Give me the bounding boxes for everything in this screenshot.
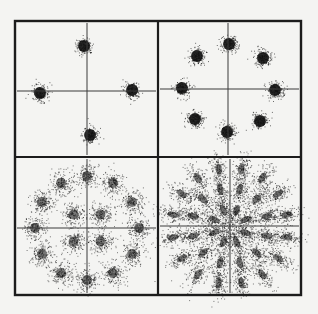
constellation-point <box>56 178 66 188</box>
constellation-point <box>95 236 105 246</box>
constellation-point <box>257 52 269 64</box>
constellation-point <box>127 197 137 207</box>
constellation-point <box>95 210 105 220</box>
constellation-point <box>37 249 47 259</box>
constellation-point <box>127 249 137 259</box>
constellation-point <box>223 38 235 50</box>
constellation-point <box>84 129 96 141</box>
panel-8psk <box>171 35 288 145</box>
constellation-point <box>108 178 118 188</box>
constellation-point <box>78 40 90 52</box>
constellation-point <box>56 268 66 278</box>
constellation-point <box>108 268 118 278</box>
constellation-points <box>22 35 309 308</box>
panel-qpsk <box>25 35 143 145</box>
constellation-point <box>260 212 273 221</box>
constellation-point <box>191 50 203 62</box>
constellation-point <box>167 211 179 219</box>
constellation-figure <box>0 0 318 314</box>
constellation-point <box>187 231 200 240</box>
constellation-point <box>69 236 79 246</box>
constellation-point <box>189 113 201 125</box>
panel-32apsk <box>153 150 310 307</box>
constellation-point <box>260 231 273 240</box>
constellation-point <box>69 210 79 220</box>
constellation-point <box>37 197 47 207</box>
constellation-point <box>34 87 46 99</box>
constellation-point <box>176 82 188 94</box>
constellation-point <box>126 84 138 96</box>
panel-16apsk <box>22 156 154 297</box>
constellation-point <box>254 115 266 127</box>
constellation-point <box>269 84 281 96</box>
constellation-point <box>221 126 233 138</box>
